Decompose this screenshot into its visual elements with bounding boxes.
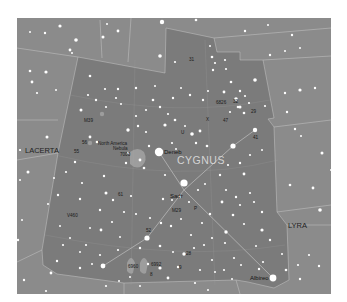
star-label-52: 52 <box>146 228 152 233</box>
star <box>297 264 299 266</box>
star <box>171 142 173 144</box>
star <box>44 32 46 34</box>
star <box>211 56 214 59</box>
star <box>258 268 260 270</box>
star <box>204 183 206 185</box>
star <box>299 47 301 49</box>
star <box>59 225 61 227</box>
star <box>44 70 47 73</box>
constellation-label-lacerta: LACERTA <box>25 146 59 155</box>
constellation-label-lyra: LYRA <box>288 221 307 230</box>
star <box>135 87 137 89</box>
star <box>223 91 226 94</box>
star <box>264 105 266 107</box>
star <box>225 189 227 191</box>
star <box>190 132 194 136</box>
star <box>101 264 106 269</box>
star <box>144 235 149 240</box>
star <box>188 201 190 203</box>
star-label-41: 41 <box>253 135 259 140</box>
star <box>23 279 25 281</box>
star <box>53 177 55 179</box>
star <box>284 50 286 52</box>
star <box>119 236 121 238</box>
star <box>69 49 72 52</box>
star <box>71 52 73 54</box>
star <box>281 253 283 255</box>
object-label-6960: 6960 <box>128 264 139 269</box>
star-label-albireo: Albireo <box>250 275 269 281</box>
star <box>230 143 235 148</box>
star <box>117 88 119 90</box>
star <box>129 276 131 278</box>
bright-star-albireo <box>270 275 277 282</box>
bright-star-deneb <box>155 148 163 156</box>
star <box>194 282 196 284</box>
star <box>330 169 332 171</box>
star <box>135 115 137 117</box>
star <box>85 244 87 246</box>
star <box>249 192 251 194</box>
star <box>267 24 269 26</box>
star <box>184 125 186 127</box>
star <box>261 211 263 213</box>
star <box>207 289 209 291</box>
object-label-x: X <box>206 117 209 122</box>
star-label-61: 61 <box>118 192 124 197</box>
star <box>148 145 150 147</box>
star <box>58 24 61 27</box>
star <box>79 267 81 269</box>
star <box>46 136 49 139</box>
star <box>239 106 242 109</box>
star <box>230 81 233 84</box>
star <box>244 30 246 32</box>
star <box>69 237 71 239</box>
star <box>139 159 142 162</box>
star <box>87 94 89 96</box>
object-label-6826: 6826 <box>216 100 227 105</box>
star <box>223 269 225 271</box>
star <box>125 162 127 164</box>
star <box>255 245 257 247</box>
star <box>102 36 105 39</box>
star <box>206 145 209 148</box>
star <box>126 128 129 131</box>
star <box>130 195 132 197</box>
star <box>199 130 202 133</box>
star <box>298 88 301 91</box>
star <box>174 119 177 122</box>
star <box>135 213 137 215</box>
object-label-north-america-nebula-2: Nebula <box>113 146 128 151</box>
star <box>211 237 213 239</box>
star <box>104 88 106 90</box>
object-label-m39: M39 <box>84 118 93 123</box>
star <box>112 199 114 201</box>
star <box>249 154 251 156</box>
star <box>159 245 162 248</box>
star-label-8: 8 <box>150 272 153 277</box>
star <box>99 254 101 256</box>
star <box>167 113 169 115</box>
star <box>189 94 191 96</box>
star <box>193 247 195 249</box>
star <box>233 257 235 259</box>
star <box>211 259 213 261</box>
star <box>269 239 271 241</box>
star <box>80 109 83 112</box>
star <box>214 62 216 64</box>
star <box>300 135 302 137</box>
star <box>318 208 322 212</box>
star <box>105 192 108 195</box>
star <box>106 23 108 25</box>
star <box>224 242 226 244</box>
star <box>91 263 93 265</box>
star <box>137 125 139 127</box>
star <box>55 89 57 91</box>
star-label-47: 47 <box>223 118 229 123</box>
star <box>219 174 221 176</box>
star <box>149 217 151 219</box>
star <box>197 189 199 191</box>
star <box>214 271 216 273</box>
star <box>239 162 241 164</box>
star <box>29 70 32 73</box>
